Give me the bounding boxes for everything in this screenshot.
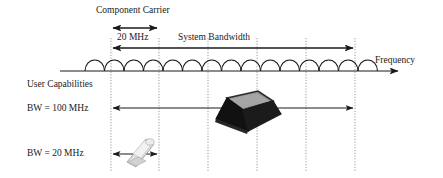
carrier-arc: [319, 60, 339, 71]
carrier-aggregation-diagram: Component Carrier 20 MHz System Bandwidt…: [0, 0, 443, 178]
label-bw-100: BW = 100 MHz: [27, 104, 88, 114]
carrier-arc: [202, 60, 222, 71]
carrier-arc: [124, 60, 144, 71]
carrier-arc: [105, 60, 125, 71]
label-system-bandwidth: System Bandwidth: [178, 33, 250, 43]
label-bw-20: BW = 20 MHz: [27, 149, 84, 159]
phone-illustration: [127, 139, 154, 167]
carrier-arc: [280, 60, 300, 71]
label-component-carrier: Component Carrier: [96, 6, 170, 16]
laptop-illustration: [215, 91, 281, 134]
label-carrier-width: 20 MHz: [117, 33, 148, 43]
carrier-arc: [300, 60, 320, 71]
label-frequency-axis: Frequency: [375, 56, 415, 66]
carrier-arc: [85, 60, 105, 71]
carrier-arc: [144, 60, 164, 71]
label-user-capabilities: User Capabilities: [27, 80, 93, 90]
phone-hinge: [146, 139, 154, 145]
carrier-arc: [241, 60, 261, 71]
carrier-arc: [163, 60, 183, 71]
carrier-arc: [222, 60, 242, 71]
component-carrier-arcs: [85, 60, 378, 71]
carrier-arc: [183, 60, 203, 71]
carrier-arc: [261, 60, 281, 71]
